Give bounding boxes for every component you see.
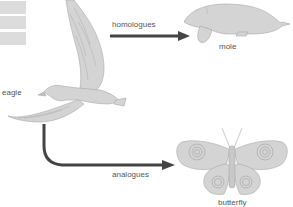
butterfly-illustration (177, 128, 288, 195)
analogues-arrow (44, 124, 175, 170)
analogues-label: analogues (112, 170, 149, 179)
mole-illustration (184, 4, 290, 43)
homologues-arrow (110, 31, 190, 41)
eagle-illustration (8, 0, 126, 122)
mole-label: mole (219, 42, 236, 51)
eagle-label: eagle (2, 88, 22, 97)
butterfly-label: butterfly (218, 198, 246, 207)
homologues-label: homologues (112, 20, 156, 29)
